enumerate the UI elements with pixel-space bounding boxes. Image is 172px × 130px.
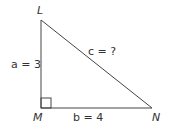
vertex-label-m: M [33, 112, 43, 123]
side-c-hypotenuse [41, 20, 152, 108]
vertex-label-l: L [37, 5, 43, 16]
vertex-label-n: N [152, 112, 160, 123]
side-label-c: c = ? [88, 46, 116, 57]
right-angle-marker [41, 98, 51, 108]
side-label-b: b = 4 [73, 112, 103, 123]
side-label-a: a = 3 [11, 59, 41, 70]
